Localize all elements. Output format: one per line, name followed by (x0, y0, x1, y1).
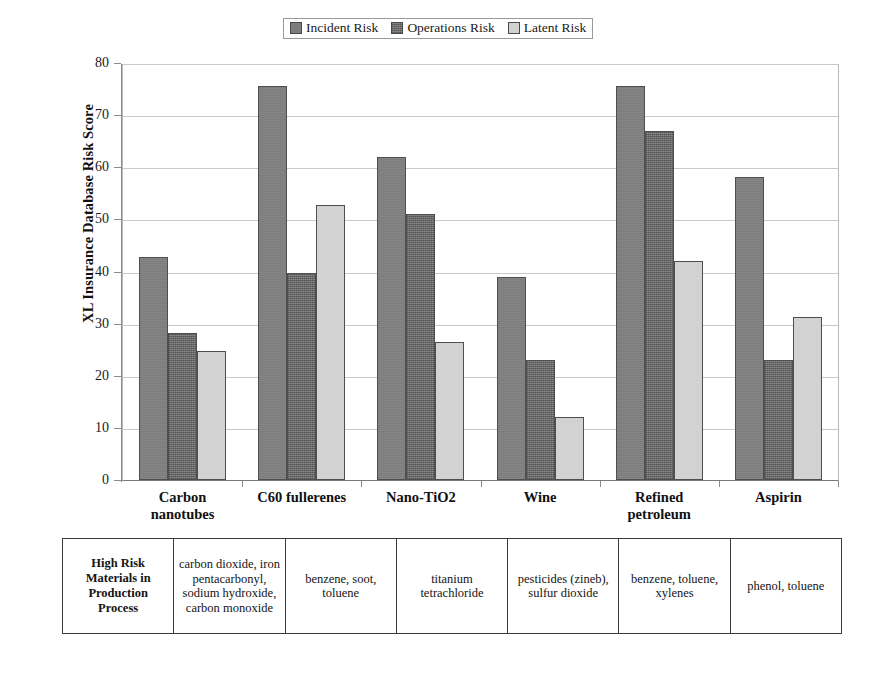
table-cell-refined-petroleum: benzene, toluene, xylenes (619, 539, 730, 634)
y-axis-tick-label: 60 (78, 160, 109, 174)
bar-operations (764, 360, 793, 480)
y-axis-tick-label: 0 (78, 473, 109, 487)
bar-incident (497, 277, 526, 480)
bar-incident (735, 177, 764, 480)
y-axis-tick-label: 70 (78, 108, 109, 122)
bar-group (719, 65, 838, 480)
x-axis-tick (838, 481, 839, 487)
bar-group (123, 65, 242, 480)
y-axis-tick-label: 10 (78, 421, 109, 435)
bar-group (481, 65, 600, 480)
y-axis-tick-label: 30 (78, 317, 109, 331)
table-cell-c60-fullerenes: benzene, soot, toluene (285, 539, 396, 634)
bar-chart: XL Insurance Database Risk Score 0102030… (0, 0, 871, 520)
bar-latent (197, 351, 226, 480)
x-axis-label-line: petroleum (600, 506, 719, 523)
materials-table: High Risk Materials in Production Proces… (62, 538, 842, 634)
bar-group (242, 65, 361, 480)
y-axis-tick (114, 167, 121, 168)
x-axis-tick (600, 481, 601, 487)
y-axis-tick (114, 376, 121, 377)
y-axis-tick (114, 480, 121, 481)
x-axis-label-line: Refined (600, 489, 719, 506)
x-axis-label-line: C60 fullerenes (242, 489, 361, 506)
y-axis-tick-label: 40 (78, 265, 109, 279)
bar-operations (406, 214, 435, 480)
bar-latent (316, 205, 345, 480)
x-axis-label-line: Nano-TiO2 (361, 489, 480, 506)
x-axis-tick (481, 481, 482, 487)
x-axis-label-aspirin: Aspirin (719, 489, 838, 506)
bar-group (361, 65, 480, 480)
bar-latent (674, 261, 703, 480)
table-cell-nano-tio2: titanium tetrachloride (396, 539, 507, 634)
x-axis-label-line: nanotubes (123, 506, 242, 523)
table-cell-aspirin: phenol, toluene (730, 539, 841, 634)
y-axis-tick (114, 272, 121, 273)
y-axis-tick (114, 324, 121, 325)
y-axis-tick-label: 50 (78, 212, 109, 226)
bar-incident (377, 157, 406, 480)
bar-latent (435, 342, 464, 480)
bar-latent (555, 417, 584, 480)
y-axis-tick-label: 20 (78, 369, 109, 383)
table-cell-wine: pesticides (zineb), sulfur dioxide (508, 539, 619, 634)
bar-operations (526, 360, 555, 480)
x-axis-label-carbon-nanotubes: Carbonnanotubes (123, 489, 242, 523)
bar-incident (139, 257, 168, 480)
x-axis-label-refined-petroleum: Refinedpetroleum (600, 489, 719, 523)
y-axis-tick-label: 80 (78, 56, 109, 70)
x-axis-label-line: Wine (481, 489, 600, 506)
table-cell-carbon-nanotubes: carbon dioxide, iron pentacarbonyl, sodi… (174, 539, 285, 634)
bar-operations (287, 273, 316, 481)
x-axis-tick (242, 481, 243, 487)
bar-operations (168, 333, 197, 480)
y-axis-tick (114, 115, 121, 116)
bar-incident (616, 86, 645, 480)
table-row: High Risk Materials in Production Proces… (63, 539, 842, 634)
x-axis-label-nano-tio2: Nano-TiO2 (361, 489, 480, 506)
x-axis-tick (361, 481, 362, 487)
bar-group (600, 65, 719, 480)
bar-incident (258, 86, 287, 480)
y-axis-tick (114, 63, 121, 64)
bar-series-container (123, 65, 838, 480)
x-axis-tick (719, 481, 720, 487)
y-axis-tick (114, 219, 121, 220)
bar-operations (645, 131, 674, 480)
y-axis-tick (114, 428, 121, 429)
x-axis-label-line: Aspirin (719, 489, 838, 506)
x-axis-label-c60-fullerenes: C60 fullerenes (242, 489, 361, 506)
bar-latent (793, 317, 822, 480)
y-axis-line (121, 64, 122, 482)
x-axis-label-wine: Wine (481, 489, 600, 506)
table-row-header: High Risk Materials in Production Proces… (63, 539, 174, 634)
x-axis-label-line: Carbon (123, 489, 242, 506)
